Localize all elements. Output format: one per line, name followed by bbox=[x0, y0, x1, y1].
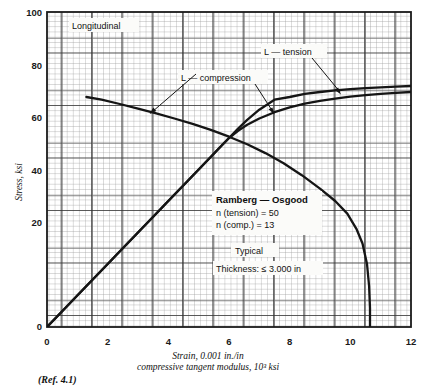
label-thickness: Thickness: ≤ 3.000 in bbox=[216, 264, 301, 274]
x-axis-title-line2: compressive tangent modulus, 10³ ksi bbox=[137, 362, 279, 372]
y-axis-title: Stress, ksi bbox=[14, 163, 24, 201]
ramberg-osgood-title: Ramberg — Osgood bbox=[216, 194, 308, 205]
ramberg-osgood-n-tension: n (tension) = 50 bbox=[216, 208, 279, 218]
major-gridlines bbox=[47, 12, 411, 327]
x-tick-6: 6 bbox=[226, 336, 231, 347]
annotation-typical: Typical bbox=[231, 243, 279, 257]
y-tick-20: 20 bbox=[31, 217, 42, 228]
y-axis-tick-labels: 100 80 60 40 20 0 bbox=[26, 7, 42, 332]
label-l-tension: L — tension bbox=[264, 47, 312, 57]
annotation-longitudinal: Longitudinal bbox=[69, 18, 139, 32]
ramberg-osgood-n-comp: n (comp.) = 13 bbox=[216, 220, 274, 230]
label-longitudinal: Longitudinal bbox=[72, 21, 121, 31]
x-tick-0: 0 bbox=[44, 336, 49, 347]
x-axis-title-line1: Strain, 0.001 in./in bbox=[172, 351, 244, 361]
x-tick-12: 12 bbox=[406, 336, 417, 347]
y-tick-0: 0 bbox=[37, 321, 42, 332]
x-tick-8: 8 bbox=[287, 336, 292, 347]
annotation-ramberg-osgood: Ramberg — Osgood n (tension) = 50 n (com… bbox=[212, 191, 322, 235]
reference-note: (Ref. 4.1) bbox=[38, 374, 77, 386]
y-tick-80: 80 bbox=[31, 60, 42, 71]
y-tick-60: 60 bbox=[31, 112, 42, 123]
x-tick-10: 10 bbox=[345, 336, 356, 347]
x-axis-tick-labels: 0 2 4 6 8 10 12 bbox=[44, 336, 416, 347]
x-tick-2: 2 bbox=[105, 336, 110, 347]
figure-stress-strain-chart: Longitudinal L — tension L — compression… bbox=[0, 0, 427, 390]
y-tick-40: 40 bbox=[31, 165, 42, 176]
label-typical: Typical bbox=[235, 246, 263, 256]
y-tick-100: 100 bbox=[26, 7, 42, 18]
annotation-thickness: Thickness: ≤ 3.000 in bbox=[213, 261, 323, 275]
chart-canvas: Longitudinal L — tension L — compression… bbox=[0, 0, 427, 390]
x-tick-4: 4 bbox=[166, 336, 172, 347]
